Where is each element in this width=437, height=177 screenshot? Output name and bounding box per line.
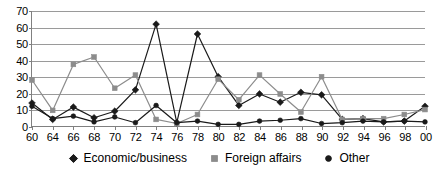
legend-label: Foreign affairs [225, 152, 301, 165]
data-point-88 [298, 89, 305, 96]
x-tick-mark-86 [281, 126, 282, 130]
x-tick-label-86: 86 [275, 131, 287, 143]
legend-item-economic-business[interactable]: Economic/business [68, 152, 187, 165]
y-tick-label-10: 10 [16, 105, 28, 116]
x-tick-label-68: 68 [88, 131, 100, 143]
x-tick-label-82: 82 [233, 131, 245, 143]
data-point-86 [278, 118, 283, 123]
y-tick-label-40: 40 [16, 55, 28, 66]
x-tick-mark-98 [405, 126, 406, 130]
x-tick-label-80: 80 [213, 131, 225, 143]
x-tick-label-84: 84 [254, 131, 266, 143]
data-point-90 [319, 74, 324, 79]
data-point-72 [133, 120, 138, 125]
x-tick-mark-78 [198, 126, 199, 130]
plot-area: 010203040506070 606466687072747678808284… [31, 11, 425, 127]
series-line [32, 105, 425, 124]
x-tick-mark-96 [385, 126, 386, 130]
data-point-72 [133, 73, 138, 78]
x-tick-label-74: 74 [150, 131, 162, 143]
y-tick-label-20: 20 [16, 88, 28, 99]
data-point-80 [216, 122, 221, 127]
x-tick-label-76: 76 [171, 131, 183, 143]
x-tick-label-00: 00 [420, 131, 432, 143]
series-line [32, 24, 425, 123]
x-tick-mark-90 [322, 126, 323, 130]
data-point-00 [423, 120, 428, 125]
data-point-70 [112, 115, 117, 120]
x-tick-label-64: 64 [47, 131, 59, 143]
x-tick-mark-92 [343, 126, 344, 130]
x-tick-mark-88 [302, 126, 303, 130]
data-point-84 [257, 119, 262, 124]
diamond-marker-icon [68, 153, 79, 164]
x-tick-label-88: 88 [296, 131, 308, 143]
x-tick-mark-00 [426, 126, 427, 130]
data-point-66 [71, 62, 76, 67]
data-point-88 [299, 110, 304, 115]
series-line [32, 57, 425, 124]
x-tick-mark-70 [115, 126, 116, 130]
x-tick-mark-66 [73, 126, 74, 130]
data-point-84 [257, 73, 262, 78]
x-tick-mark-64 [53, 126, 54, 130]
data-point-96 [381, 120, 386, 125]
x-tick-label-96: 96 [379, 131, 391, 143]
data-point-74 [153, 21, 160, 28]
series-economic-business [29, 21, 429, 126]
square-marker-icon [209, 153, 220, 164]
data-point-78 [194, 31, 201, 38]
data-point-60 [30, 104, 35, 109]
x-tick-label-98: 98 [399, 131, 411, 143]
x-tick-label-66: 66 [68, 131, 80, 143]
x-tick-mark-68 [94, 126, 95, 130]
data-point-78 [195, 119, 200, 124]
y-tick-label-70: 70 [16, 6, 28, 17]
data-point-90 [319, 121, 324, 126]
x-tick-mark-94 [364, 126, 365, 130]
line-chart: 010203040506070 606466687072747678808284… [0, 0, 437, 177]
data-point-82 [236, 97, 241, 102]
data-point-98 [402, 119, 407, 124]
data-point-94 [361, 119, 366, 124]
x-tick-mark-76 [177, 126, 178, 130]
y-tick-label-30: 30 [16, 72, 28, 83]
data-point-60 [30, 78, 35, 83]
legend-item-other[interactable]: Other [323, 152, 369, 165]
data-point-66 [70, 104, 77, 111]
x-tick-label-92: 92 [337, 131, 349, 143]
x-tick-label-94: 94 [358, 131, 370, 143]
series-layer [32, 11, 425, 126]
x-tick-label-60: 60 [26, 131, 38, 143]
data-point-98 [402, 112, 407, 117]
data-point-82 [236, 122, 241, 127]
x-tick-label-90: 90 [316, 131, 328, 143]
data-point-64 [50, 108, 55, 113]
x-tick-label-72: 72 [130, 131, 142, 143]
data-point-68 [92, 120, 97, 125]
legend-label: Other [339, 152, 369, 165]
data-point-68 [92, 55, 97, 60]
data-point-84 [256, 91, 263, 98]
data-point-92 [340, 120, 345, 125]
data-point-78 [195, 112, 200, 117]
data-point-74 [154, 103, 159, 108]
x-tick-mark-60 [32, 126, 33, 130]
chart-legend: Economic/businessForeign affairsOther [0, 152, 437, 165]
x-tick-mark-74 [156, 126, 157, 130]
legend-item-foreign-affairs[interactable]: Foreign affairs [209, 152, 301, 165]
data-point-80 [216, 77, 221, 82]
circle-marker-icon [323, 153, 334, 164]
x-tick-label-78: 78 [192, 131, 204, 143]
data-point-88 [299, 116, 304, 121]
data-point-66 [71, 114, 76, 119]
x-tick-label-70: 70 [109, 131, 121, 143]
legend-label: Economic/business [84, 152, 187, 165]
y-tick-label-50: 50 [16, 39, 28, 50]
x-tick-mark-72 [136, 126, 137, 130]
y-tick-label-60: 60 [16, 22, 28, 33]
data-point-86 [277, 99, 284, 106]
data-point-00 [423, 107, 428, 112]
data-point-76 [174, 120, 179, 125]
data-point-86 [278, 92, 283, 97]
